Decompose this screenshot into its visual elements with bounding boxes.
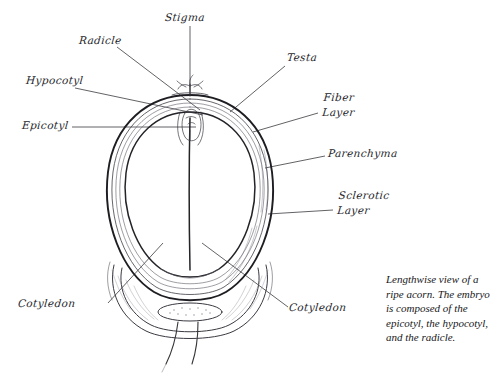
label-cotyledon-right: Cotyledon [288, 300, 347, 314]
cupule-rim-left [108, 262, 112, 300]
leader-cotyledon-left [108, 243, 163, 303]
label-stigma: Stigma [164, 10, 205, 24]
stigma-bristle-outer-right [194, 81, 203, 87]
shell-shading [226, 146, 268, 282]
cupule-group [108, 262, 273, 372]
label-epicotyl: Epicotyl [21, 118, 69, 132]
epicotyl-mark [186, 117, 196, 119]
leader-sclerotic-layer [268, 210, 333, 214]
hypocotyl-mark [188, 123, 195, 125]
figure-caption: Lengthwise view of a ripe acorn. The emb… [386, 272, 498, 345]
cupule-rim-right [268, 262, 272, 300]
acorn-diagram-figure: Stigma Radicle Hypocotyl Epicotyl Testa … [0, 0, 503, 389]
label-parenchyma: Parenchyma [327, 146, 398, 160]
label-testa: Testa [286, 50, 318, 64]
leader-hypocotyl [75, 88, 203, 115]
label-hypocotyl: Hypocotyl [25, 73, 84, 87]
peduncle-right [192, 322, 198, 364]
label-sclerotic-layer: Sclerotic Layer [337, 188, 391, 218]
leader-parenchyma [265, 156, 325, 168]
label-cotyledon-left: Cotyledon [17, 296, 76, 310]
stigma-bristle-right [190, 85, 202, 89]
label-fiber-layer: Fiber Layer [322, 90, 357, 120]
label-radicle: Radicle [78, 33, 122, 47]
stigma-bristle-outer-left [177, 81, 186, 87]
leader-fiber-layer [253, 113, 318, 132]
leader-testa [230, 66, 285, 112]
peduncle-tip [162, 364, 166, 372]
scar-stipple [169, 307, 210, 315]
peduncle-left [166, 322, 178, 364]
stigma-bristle-left [178, 85, 190, 89]
leader-lines [72, 26, 333, 307]
attachment-scar [158, 303, 222, 321]
